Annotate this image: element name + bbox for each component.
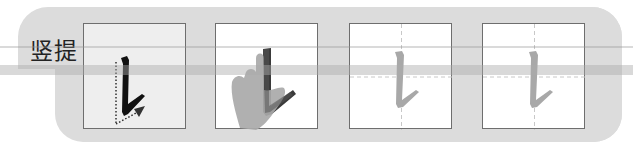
stroke-direction-icon (84, 24, 187, 130)
practice-grid-box-2 (482, 23, 585, 129)
scan-artifact (0, 46, 633, 48)
stroke-shape (529, 51, 553, 108)
stroke-name-label: 竖提 (30, 32, 78, 66)
stroke-shape (395, 51, 419, 108)
stroke-demo-box (83, 23, 186, 129)
practice-grid-box-1 (349, 23, 452, 129)
scan-artifact (0, 65, 633, 75)
finger-trace-box (215, 23, 318, 129)
